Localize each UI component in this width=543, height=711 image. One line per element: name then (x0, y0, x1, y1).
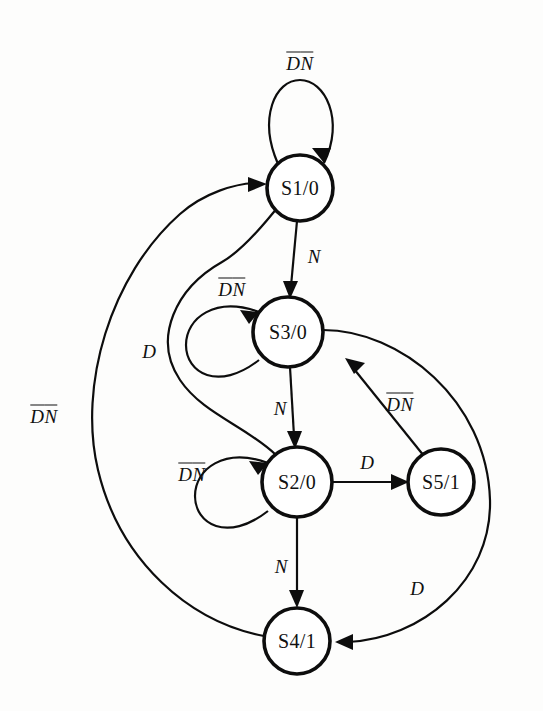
edge-label-s3-self: DN (218, 278, 245, 299)
transition-s2-to-s4[interactable] (289, 517, 304, 608)
state-label-s1: S1/0 (281, 177, 319, 199)
transition-s1-self-loop[interactable] (269, 80, 333, 164)
state-node-s3[interactable]: S3/0 (253, 297, 323, 367)
state-node-s4[interactable]: S4/1 (264, 608, 330, 674)
state-node-s1[interactable]: S1/0 (267, 155, 333, 221)
transition-s3-to-s2[interactable] (287, 367, 302, 449)
state-diagram-canvas: S1/0 S3/0 S2/0 S5/1 S4/1 DN DN DN N N N … (0, 0, 543, 711)
edge-label-s4-s1: DN (30, 405, 57, 426)
edge-label-s1-self: DN (286, 52, 313, 73)
transition-s4-to-s1[interactable] (92, 177, 267, 636)
state-label-s3: S3/0 (269, 321, 307, 343)
state-node-s5[interactable]: S5/1 (408, 449, 474, 515)
edge-label-s3-s2: N (274, 399, 287, 418)
edge-label-s2-s5: D (360, 453, 374, 472)
transition-s1-to-s3[interactable] (283, 221, 298, 299)
edge-label-s3-s4: D (410, 579, 424, 598)
state-label-s4: S4/1 (278, 630, 316, 652)
transition-s2-to-s5[interactable] (332, 474, 409, 490)
edge-label-s5-s3: DN (386, 393, 413, 414)
transition-s3-self-loop[interactable] (186, 307, 259, 377)
edge-label-s1-s3: N (308, 247, 321, 266)
state-label-s5: S5/1 (422, 471, 460, 493)
edge-label-s2-s1: D (142, 342, 156, 361)
state-label-s2: S2/0 (278, 471, 316, 493)
edge-label-s2-s4: N (275, 557, 288, 576)
transition-s2-self-loop[interactable] (195, 458, 268, 528)
state-node-s2[interactable]: S2/0 (262, 447, 332, 517)
edge-label-s2-self: DN (178, 463, 205, 484)
fsm-svg: S1/0 S3/0 S2/0 S5/1 S4/1 (0, 0, 543, 711)
